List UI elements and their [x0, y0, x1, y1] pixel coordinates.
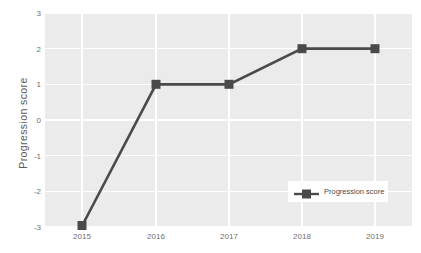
data-point-2016: [152, 80, 161, 89]
x-tick-2015: 2015: [60, 232, 104, 241]
x-tick-2017: 2017: [207, 232, 251, 241]
data-point-2017: [225, 80, 234, 89]
y-tick-neg1: -1: [28, 151, 41, 160]
x-tick-2016: 2016: [134, 232, 178, 241]
y-tick-1: 1: [28, 80, 41, 89]
y-tick-0: 0: [28, 116, 41, 125]
data-point-2019: [371, 44, 380, 53]
x-tick-2018: 2018: [280, 232, 324, 241]
chart-legend[interactable]: Progression score: [288, 181, 388, 202]
data-point-2015: [78, 221, 87, 230]
y-tick-3: 3: [28, 9, 41, 18]
y-tick-neg2: -2: [28, 187, 41, 196]
y-tick-neg3: -3: [28, 223, 41, 232]
line-chart: Progression score 3 2 1 0 -1 -2 -3: [0, 0, 421, 253]
legend-label-progression-score: Progression score: [324, 187, 384, 196]
data-point-2018: [298, 44, 307, 53]
legend-marker-icon: [293, 186, 320, 198]
y-tick-2: 2: [28, 44, 41, 53]
x-tick-2019: 2019: [353, 232, 397, 241]
